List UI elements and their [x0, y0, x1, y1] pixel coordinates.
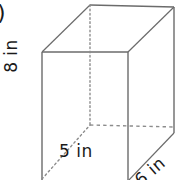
prism-figure: ) 8 in 5 in 6 in: [0, 0, 192, 180]
problem-marker: ): [0, 2, 6, 24]
width-dimension-label: 5 in: [59, 142, 93, 160]
back-top-edge: [90, 5, 174, 7]
height-dimension-label: 8 in: [2, 28, 20, 84]
back-face-edges: [90, 5, 174, 133]
depth-edge-top-left: [42, 5, 90, 52]
hidden-back-bottom-edge: [90, 125, 174, 127]
rectangular-prism-drawing: [0, 0, 192, 180]
depth-edge-top-right: [128, 7, 174, 52]
